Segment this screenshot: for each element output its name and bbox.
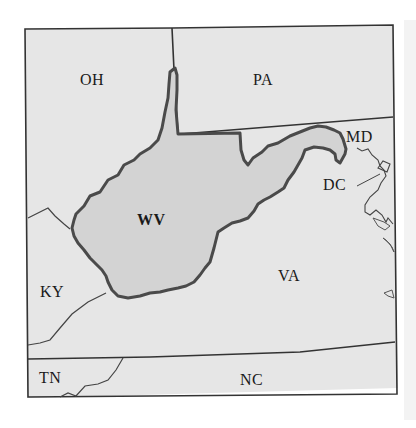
label-nc: NC — [240, 372, 263, 388]
label-pa: PA — [253, 72, 273, 88]
label-oh: OH — [80, 72, 104, 88]
label-va: VA — [278, 268, 300, 284]
label-ky: KY — [40, 284, 64, 300]
label-md: MD — [346, 129, 373, 145]
regional-map — [0, 0, 416, 428]
label-wv: WV — [137, 212, 166, 228]
label-dc: DC — [323, 177, 346, 193]
label-tn: TN — [39, 370, 61, 386]
